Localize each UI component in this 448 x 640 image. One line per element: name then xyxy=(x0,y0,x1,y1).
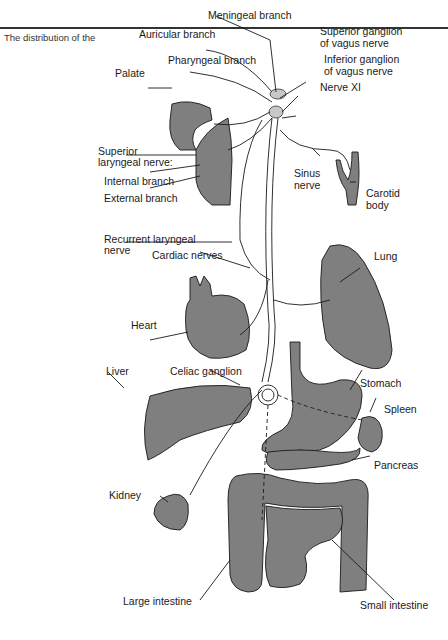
label-sinus-nerve-line1: Sinus xyxy=(294,168,320,179)
inferior-ganglion-shape xyxy=(269,106,283,118)
label-pancreas: Pancreas xyxy=(374,460,418,471)
vagus-nerve-diagram xyxy=(0,0,448,640)
label-auricular-branch: Auricular branch xyxy=(139,29,215,40)
label-spleen: Spleen xyxy=(384,404,417,415)
label-celiac-ganglion: Celiac ganglion xyxy=(170,366,242,377)
label-large-intestine: Large intestine xyxy=(123,596,192,607)
kidney-shape xyxy=(154,494,188,530)
label-superior-ganglion-line2: of vagus nerve xyxy=(320,38,389,49)
label-inferior-ganglion-line1: Inferior ganglion xyxy=(324,54,399,65)
label-palate: Palate xyxy=(115,68,145,79)
label-inferior-ganglion-line2: of vagus nerve xyxy=(324,66,393,77)
vagus-trunk xyxy=(262,118,272,382)
label-stomach: Stomach xyxy=(360,378,401,389)
label-external-branch: External branch xyxy=(104,193,178,204)
carotid-body-shape xyxy=(336,152,359,205)
label-nerve-xi: Nerve XI xyxy=(320,82,361,93)
larynx-shape xyxy=(196,118,232,205)
label-sinus-nerve-line2: nerve xyxy=(294,180,320,191)
label-carotid-body-line2: body xyxy=(366,200,389,211)
label-liver: Liver xyxy=(106,366,129,377)
label-kidney: Kidney xyxy=(109,490,141,501)
label-lung: Lung xyxy=(374,251,397,262)
celiac-ganglion xyxy=(258,385,278,405)
pancreas-shape xyxy=(266,448,360,470)
label-heart: Heart xyxy=(131,320,157,331)
label-superior-ganglion-line1: Superior ganglion xyxy=(320,26,402,37)
label-meningeal-branch: Meningeal branch xyxy=(208,10,291,21)
label-recurrent-laryngeal-line2: nerve xyxy=(104,245,130,256)
label-cardiac-nerves: Cardiac nerves xyxy=(152,250,223,261)
spleen-shape xyxy=(358,417,382,453)
label-superior-laryngeal-line2: laryngeal nerve: xyxy=(98,157,173,168)
small-intestine-shape xyxy=(265,506,342,588)
label-pharyngeal-branch: Pharyngeal branch xyxy=(168,55,256,66)
heart-shape xyxy=(186,276,250,358)
superior-ganglion-shape xyxy=(270,89,286,99)
label-internal-branch: Internal branch xyxy=(104,176,174,187)
liver-shape xyxy=(144,385,251,460)
label-small-intestine: Small intestine xyxy=(360,600,428,611)
lung-shape xyxy=(321,245,392,369)
label-carotid-body-line1: Carotid xyxy=(366,188,400,199)
